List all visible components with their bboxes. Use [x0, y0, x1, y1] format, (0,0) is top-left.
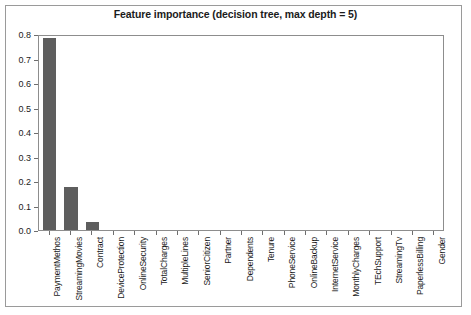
- x-axis: PaymentMethosStreamingMoviesContractDevi…: [38, 231, 444, 315]
- plot-frame: [38, 35, 444, 231]
- x-tick-mark: [156, 231, 157, 235]
- x-tick-mark: [305, 231, 306, 235]
- chart-title: Feature importance (decision tree, max d…: [0, 8, 471, 20]
- x-tick-label: Partner: [223, 237, 233, 264]
- y-tick-label: 0.0: [18, 226, 31, 236]
- x-tick-mark: [369, 231, 370, 235]
- x-tick-mark: [348, 231, 349, 235]
- y-tick-label: 0.8: [18, 30, 31, 40]
- y-tick-label: 0.3: [18, 153, 31, 163]
- x-tick-mark: [391, 231, 392, 235]
- x-tick-mark: [412, 231, 413, 235]
- x-tick-mark: [113, 231, 114, 235]
- x-tick-label: MultipleLines: [180, 237, 190, 285]
- x-tick-label: SeniorCitizen: [202, 237, 212, 286]
- x-tick-mark: [70, 231, 71, 235]
- y-axis: 0.00.10.20.30.40.50.60.70.8: [0, 35, 38, 231]
- x-tick-mark: [49, 231, 50, 235]
- bar: [43, 38, 56, 230]
- x-tick-mark: [91, 231, 92, 235]
- x-tick-label: InternetService: [330, 237, 340, 292]
- x-tick-label: TotalCharges: [159, 237, 169, 285]
- y-tick-label: 0.5: [18, 104, 31, 114]
- x-tick-mark: [177, 231, 178, 235]
- x-tick-mark: [241, 231, 242, 235]
- x-tick-mark: [134, 231, 135, 235]
- x-tick-label: PaymentMethos: [52, 237, 62, 296]
- plot-area: [39, 36, 443, 230]
- x-tick-label: StreamingMovies: [74, 237, 84, 300]
- x-tick-label: MonthlyCharges: [351, 237, 361, 297]
- x-tick-label: Gender: [437, 237, 447, 264]
- x-tick-mark: [262, 231, 263, 235]
- bar: [86, 222, 99, 230]
- y-tick-label: 0.6: [18, 79, 31, 89]
- x-tick-mark: [220, 231, 221, 235]
- x-tick-label: Tenure: [266, 237, 276, 262]
- x-tick-mark: [284, 231, 285, 235]
- x-tick-mark: [326, 231, 327, 235]
- x-tick-label: DeviceProtection: [116, 237, 126, 299]
- y-tick-label: 0.4: [18, 128, 31, 138]
- x-tick-mark: [198, 231, 199, 235]
- y-tick-label: 0.2: [18, 177, 31, 187]
- chart-figure: Feature importance (decision tree, max d…: [0, 0, 471, 315]
- y-tick-label: 0.7: [18, 55, 31, 65]
- x-tick-label: PaperlessBilling: [415, 237, 425, 295]
- x-tick-label: Dependents: [245, 237, 255, 281]
- x-tick-label: TEchSupport: [373, 237, 383, 285]
- x-tick-label: Contract: [95, 237, 105, 268]
- x-tick-label: OnlineBackup: [309, 237, 319, 288]
- x-tick-label: OnlineSecurity: [138, 237, 148, 290]
- bar: [64, 187, 77, 230]
- x-tick-label: PhoneService: [287, 237, 297, 288]
- y-tick-label: 0.1: [18, 202, 31, 212]
- x-tick-label: StreamingTv: [394, 237, 404, 284]
- x-tick-mark: [433, 231, 434, 235]
